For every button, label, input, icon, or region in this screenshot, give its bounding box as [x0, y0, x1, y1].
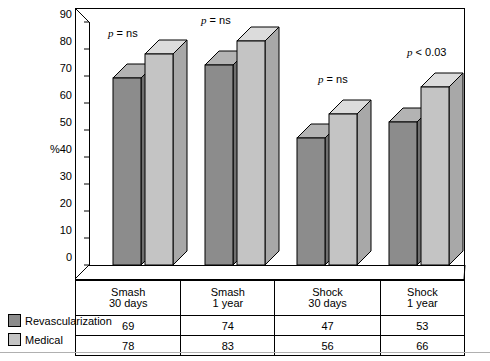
bar-side-g3-medical — [357, 100, 371, 265]
bar-side-g2-medical — [265, 27, 279, 265]
category-cell-1: Smash 30 days — [76, 281, 181, 316]
category-line2-2: 1 year — [213, 297, 244, 309]
y-tick-label-60: 60 — [56, 90, 72, 100]
legend-item-medical: Medical — [8, 330, 78, 349]
y-tick-label-20: 20 — [56, 198, 72, 208]
category-line2-4: 1 year — [407, 297, 438, 309]
category-line2-3: 30 days — [308, 297, 347, 309]
bar-front-g4-medical — [421, 87, 449, 265]
revasc-value-3: 47 — [275, 316, 380, 336]
legend-label-revascularization: Revascularization — [25, 315, 112, 327]
revasc-value-4: 53 — [380, 316, 464, 336]
bar-front-g2-revasc — [205, 65, 233, 265]
legend-label-medical: Medical — [25, 334, 63, 346]
pvalue-text-1: = ns — [114, 27, 138, 39]
legend: Revascularization Medical — [8, 311, 78, 349]
y-tick-label-90: 90 — [56, 9, 72, 19]
pvalue-annotation-group4: p < 0.03 — [407, 46, 446, 58]
bar-front-g1-revasc — [113, 78, 141, 265]
pvalue-text-2: = ns — [207, 14, 231, 26]
bar-side-g1-medical — [173, 40, 187, 265]
pvalue-annotation-group2: p = ns — [201, 14, 231, 26]
category-line2-1: 30 days — [109, 297, 148, 309]
bar-front-g2-medical — [237, 41, 265, 265]
category-cell-2: Smash 1 year — [181, 281, 275, 316]
y-tick-label-50: 50 — [56, 117, 72, 127]
category-cell-3: Shock 30 days — [275, 281, 380, 316]
table-row-categories: Smash 30 days Smash 1 year Shock 30 days… — [76, 281, 465, 316]
pvalue-text-3: = ns — [324, 73, 348, 85]
pvalue-annotation-group1: p = ns — [108, 27, 138, 39]
bar-front-g4-revasc — [389, 122, 417, 265]
bar-side-g4-medical — [449, 73, 463, 265]
bars-layer: p = ns p = ns p = ns p < 0.03 — [75, 8, 465, 280]
legend-swatch-medical — [8, 333, 21, 346]
legend-swatch-revascularization — [8, 314, 21, 327]
bar-front-g3-revasc — [297, 138, 325, 265]
category-cell-4: Shock 1 year — [380, 281, 464, 316]
y-tick-label-0: 0 — [56, 252, 72, 262]
y-tick-label-40: 40 — [56, 144, 72, 154]
y-tick-label-80: 80 — [56, 36, 72, 46]
y-tick-label-30: 30 — [56, 171, 72, 181]
table-row-revascularization: 69 74 47 53 — [76, 316, 465, 336]
bottom-divider — [0, 352, 490, 353]
revasc-value-2: 74 — [181, 316, 275, 336]
figure-root: % 90 80 70 60 50 40 30 20 10 0 — [0, 0, 490, 361]
legend-item-revascularization: Revascularization — [8, 311, 78, 330]
pvalue-text-4: < 0.03 — [413, 46, 447, 58]
y-tick-label-70: 70 — [56, 63, 72, 73]
y-axis-ticks: 90 80 70 60 50 40 30 20 10 0 — [56, 0, 72, 272]
pvalue-annotation-group3: p = ns — [318, 73, 348, 85]
data-table: Smash 30 days Smash 1 year Shock 30 days… — [75, 280, 465, 356]
bar-front-g3-medical — [329, 114, 357, 265]
y-tick-label-10: 10 — [56, 225, 72, 235]
bar-front-g1-medical — [145, 54, 173, 265]
